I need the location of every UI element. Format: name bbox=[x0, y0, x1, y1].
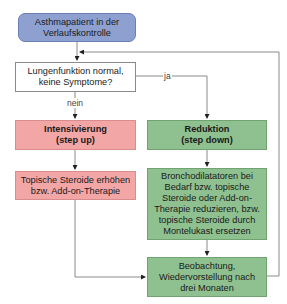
step-up-title-line2: (step up) bbox=[44, 135, 107, 146]
step-down-title-line1: Reduktion bbox=[181, 124, 233, 135]
step-down-action-line1: Bronchodilatatoren bei bbox=[154, 171, 260, 182]
step-up-action-node: Topische Steroide erhöhen bzw. Add-on-Th… bbox=[15, 171, 136, 200]
step-down-action-line4: Therapie reduzieren, bzw. bbox=[154, 204, 260, 215]
step-up-action-line2: bzw. Add-on-Therapie bbox=[21, 186, 130, 197]
edge-label-no: nein bbox=[66, 98, 84, 108]
followup-node: Beobachtung, Wiedervorstellung nach drei… bbox=[147, 257, 267, 297]
step-up-action-line1: Topische Steroide erhöhen bbox=[21, 175, 130, 186]
step-down-title-node: Reduktion (step down) bbox=[147, 120, 267, 150]
step-down-action-line5: topische Steroide durch bbox=[154, 215, 260, 226]
step-down-action-node: Bronchodilatatoren bei Bedarf bzw. topis… bbox=[147, 168, 267, 240]
step-down-title-line2: (step down) bbox=[181, 135, 233, 146]
decision-line2: keine Symptome? bbox=[27, 77, 123, 88]
edge-label-yes: ja bbox=[163, 71, 172, 81]
start-node-patient: Asthmapatient in der Verlaufskontrolle bbox=[18, 13, 136, 42]
start-node-line2: Verlaufskontrolle bbox=[35, 28, 119, 39]
step-up-title-line1: Intensivierung bbox=[44, 124, 107, 135]
step-down-action-line3: Steroide oder Add-on- bbox=[154, 193, 260, 204]
step-down-action-line2: Bedarf bzw. topische bbox=[154, 182, 260, 193]
followup-line1: Beobachtung, bbox=[159, 261, 255, 272]
step-up-title-node: Intensivierung (step up) bbox=[15, 120, 136, 150]
step-down-action-line6: Montelukast ersetzen bbox=[154, 226, 260, 237]
decision-node-lung-function: Lungenfunktion normal, keine Symptome? bbox=[15, 62, 136, 92]
followup-line2: Wiedervorstellung nach bbox=[159, 272, 255, 283]
decision-line1: Lungenfunktion normal, bbox=[27, 66, 123, 77]
start-node-line1: Asthmapatient in der bbox=[35, 17, 119, 28]
followup-line3: drei Monaten bbox=[159, 283, 255, 294]
